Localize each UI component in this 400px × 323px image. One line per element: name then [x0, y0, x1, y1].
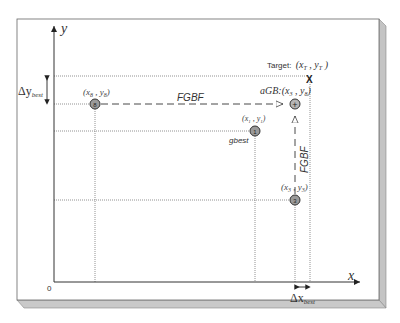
- svg-text:+: +: [292, 100, 297, 110]
- gbest-label: gbest: [229, 136, 249, 145]
- frame: [17, 19, 386, 308]
- x-axis-label: x: [347, 268, 355, 283]
- fgbf-diagram: y x 0 Target: (xT , yT ) X Δybest Δxbest…: [0, 0, 400, 323]
- y-axis-label: y: [59, 21, 68, 36]
- origin-label: 0: [47, 284, 52, 293]
- particle-1-label: (x1 , y1): [242, 114, 266, 124]
- agb-label: aGB:(x3 , y8): [260, 85, 311, 97]
- fgbf-horizontal-label: FGBF: [177, 92, 205, 103]
- fgbf-vertical-label: FGBF: [299, 145, 310, 173]
- target-marker-icon: X: [306, 74, 313, 85]
- frame-bottom-edge: [17, 300, 386, 308]
- frame-right-edge: [379, 19, 386, 308]
